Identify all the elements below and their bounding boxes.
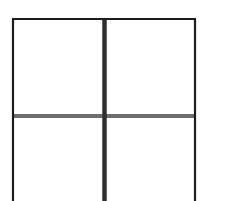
cell-bottom-right [107,118,194,201]
cell-top-left [14,20,103,114]
grid-diagram [0,0,228,201]
cell-top-right [107,20,194,114]
cell-bottom-left [14,118,103,201]
grid-svg [0,0,228,201]
